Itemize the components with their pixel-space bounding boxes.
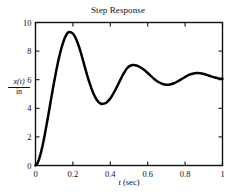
svg-text:10: 10	[23, 18, 32, 28]
svg-text:0: 0	[27, 161, 31, 171]
plot-area: 00.20.40.60.81 0246810	[0, 0, 236, 195]
y-tick-labels: 0246810	[23, 18, 32, 171]
step-response-figure: Step Response x(t) in t (sec) 00.20.40.6…	[0, 0, 236, 195]
svg-text:1: 1	[220, 169, 224, 179]
data-series-group	[36, 32, 223, 165]
svg-text:6: 6	[27, 75, 31, 85]
svg-text:0.6: 0.6	[142, 169, 153, 179]
svg-text:0.2: 0.2	[68, 169, 79, 179]
svg-text:8: 8	[27, 46, 31, 56]
svg-text:0.8: 0.8	[180, 169, 191, 179]
svg-text:4: 4	[27, 103, 32, 113]
svg-text:0: 0	[33, 169, 37, 179]
svg-text:0.4: 0.4	[105, 169, 116, 179]
x-tick-labels: 00.20.40.60.81	[33, 169, 224, 179]
svg-text:2: 2	[27, 132, 31, 142]
